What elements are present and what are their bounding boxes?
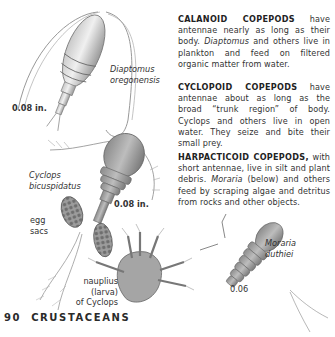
egg-label-line-2: sacs bbox=[30, 226, 48, 237]
diaptomus-label: Diaptomus oregonensis bbox=[110, 64, 160, 85]
moraria-label: Moraria duthiei bbox=[265, 238, 296, 259]
page-number: 90 bbox=[4, 312, 21, 323]
cyclopoid-paragraph: CYCLOPOID COPEPODS have antennae about a… bbox=[178, 82, 330, 149]
egg-sacs-label: egg sacs bbox=[30, 215, 48, 236]
egg-label-line-1: egg bbox=[30, 215, 48, 226]
diaptomus-genus: Diaptomus bbox=[110, 64, 160, 75]
calanoid-paragraph: CALANOID COPEPODS have antennae nearly a… bbox=[178, 14, 330, 70]
harpacticoid-paragraph: HARPACTICOID COPEPODS, with short antenn… bbox=[178, 152, 330, 208]
nauplius-line-1: nauplius bbox=[70, 276, 118, 287]
cyclops-label: Cyclops bicuspidatus bbox=[29, 170, 81, 191]
calanoid-heading: CALANOID COPEPODS bbox=[178, 14, 295, 24]
cyclops-genus: Cyclops bbox=[29, 170, 81, 181]
nauplius-label: nauplius (larva) of Cyclops bbox=[70, 276, 118, 308]
diaptomus-species: oregonensis bbox=[110, 75, 160, 86]
diaptomus-size: 0.08 in. bbox=[12, 103, 47, 114]
calanoid-genus: Diaptomus bbox=[204, 36, 249, 46]
nauplius-line-2: (larva) bbox=[70, 287, 118, 298]
cyclops-size: 0.08 in. bbox=[114, 199, 149, 210]
moraria-illustration bbox=[200, 214, 328, 332]
moraria-species: duthiei bbox=[265, 249, 296, 260]
harpacticoid-genus: Moraria bbox=[211, 174, 242, 184]
cyclops-species: bicuspidatus bbox=[29, 181, 81, 192]
harpacticoid-heading: HARPACTICOID COPEPODS, bbox=[178, 152, 309, 162]
moraria-genus: Moraria bbox=[265, 238, 296, 249]
moraria-size: 0.06 bbox=[230, 284, 248, 295]
nauplius-line-3: of Cyclops bbox=[70, 297, 118, 308]
cyclopoid-heading: CYCLOPOID COPEPODS bbox=[178, 82, 297, 92]
section-title: CRUSTACEANS bbox=[31, 312, 130, 323]
book-page: CALANOID COPEPODS have antennae nearly a… bbox=[0, 0, 335, 337]
page-footer: 90CRUSTACEANS bbox=[4, 312, 130, 323]
